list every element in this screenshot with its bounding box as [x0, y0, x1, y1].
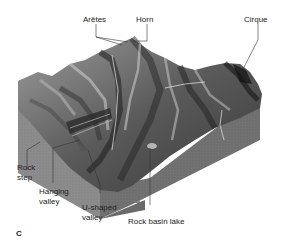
label-hanging-valley-line1: Hanging	[39, 187, 69, 196]
panel-letter: C	[16, 229, 22, 238]
label-rock-basin-lake: Rock basin lake	[128, 217, 184, 226]
block-diagram-illustration	[0, 0, 291, 244]
glacial-landforms-diagram: Arêtes Horn Cirque Rock step Hanging val…	[0, 0, 291, 244]
label-hanging-valley-line2: valley	[39, 197, 59, 206]
label-cirque: Cirque	[244, 15, 268, 24]
label-rock-step-line2: step	[17, 173, 32, 182]
label-rock-step-line1: Rock	[17, 163, 35, 172]
label-u-shaped-valley-line2: valley	[82, 213, 102, 222]
label-aretes: Arêtes	[83, 15, 106, 24]
label-horn: Horn	[136, 15, 153, 24]
label-u-shaped-valley-line1: U-shaped	[82, 203, 117, 212]
